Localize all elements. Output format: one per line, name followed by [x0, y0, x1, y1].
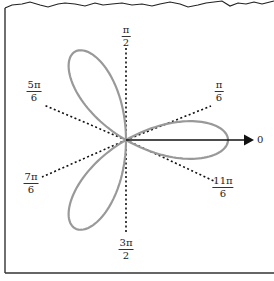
label-11pi-over-6: 11π 6 [212, 176, 233, 199]
torn-top-edge [5, 1, 274, 8]
label-denominator: 6 [28, 184, 34, 195]
label-denominator: 2 [123, 250, 129, 261]
label-numerator: 5π [27, 80, 42, 92]
label-numerator: 3π [119, 238, 134, 250]
axis-7pi-over-6 [42, 140, 126, 177]
petal-2pi-over-3 [69, 50, 126, 140]
label-denominator: 6 [31, 92, 37, 103]
label-zero: 0 [257, 135, 263, 145]
label-pi-over-6: π 6 [215, 80, 224, 103]
arrowhead-icon [244, 135, 254, 146]
label-numerator: π [215, 80, 224, 92]
label-denominator: 6 [216, 92, 222, 103]
label-7pi-over-6: 7π 6 [24, 172, 39, 195]
polar-rose-diagram [0, 0, 274, 281]
axis-5pi-over-6 [44, 105, 126, 140]
label-numerator: 11π [212, 176, 233, 188]
label-5pi-over-6: 5π 6 [27, 80, 42, 103]
label-numerator: π [122, 25, 131, 37]
label-3pi-over-2: 3π 2 [119, 238, 134, 261]
label-denominator: 2 [123, 37, 129, 48]
label-denominator: 6 [220, 188, 226, 199]
label-numerator: 7π [24, 172, 39, 184]
label-pi-over-2: π 2 [122, 25, 131, 48]
